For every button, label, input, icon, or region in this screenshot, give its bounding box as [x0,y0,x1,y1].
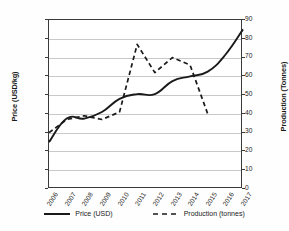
legend-item-price: Price (USD) [44,210,112,217]
dual-axis-line-chart: Price (USD/kg) Production (Tonnes) 0.002… [0,0,289,231]
y-axis-right-tick-label: 70 [245,53,271,60]
legend-label-price: Price (USD) [75,210,112,217]
y-axis-left-tickmark [45,132,48,133]
series-lines [49,20,243,189]
y-axis-left-title: Price (USD/kg) [10,50,19,144]
y-axis-right-title: Production (Tonnes) [279,45,288,149]
y-axis-right-tickmark [242,150,245,151]
y-axis-right-tick-label: 50 [245,91,271,98]
y-axis-right-tick-label: 0 [245,185,271,192]
y-axis-left-tickmark [45,19,48,20]
y-axis-left-tickmark [45,150,48,151]
y-axis-left-tickmark [45,169,48,170]
y-axis-right-tick-label: 20 [245,147,271,154]
solid-line-icon [44,211,70,217]
plot-area [48,19,242,188]
y-axis-right-tickmark [242,75,245,76]
y-axis-right-tick-label: 90 [245,16,271,23]
y-axis-right-tickmark [242,94,245,95]
y-axis-left-tickmark [45,188,48,189]
y-axis-right-tick-label: 30 [245,128,271,135]
series-line-price-usd [49,29,243,142]
y-axis-right-tick-label: 10 [245,166,271,173]
y-axis-left-tickmark [45,38,48,39]
y-axis-right-tickmark [242,132,245,133]
y-axis-right-tickmark [242,38,245,39]
dashed-line-icon [153,211,179,217]
chart-legend: Price (USD) Production (tonnes) [0,210,289,217]
y-axis-right-tickmark [242,57,245,58]
y-axis-left-tickmark [45,57,48,58]
legend-label-production: Production (tonnes) [184,210,245,217]
y-axis-left-tickmark [45,113,48,114]
y-axis-right-tick-label: 60 [245,72,271,79]
y-axis-right-tick-label: 40 [245,110,271,117]
y-axis-right-tickmark [242,169,245,170]
y-axis-left-tickmark [45,94,48,95]
y-axis-right-tickmark [242,188,245,189]
series-line-production-tonnes [49,44,208,132]
y-axis-right-tickmark [242,113,245,114]
y-axis-right-tick-label: 80 [245,35,271,42]
legend-item-production: Production (tonnes) [153,210,245,217]
y-axis-left-tickmark [45,75,48,76]
y-axis-right-tickmark [242,19,245,20]
